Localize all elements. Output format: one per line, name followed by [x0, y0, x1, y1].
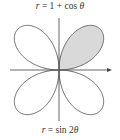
- bottom-equation-label: r = sin 2θ: [0, 125, 120, 135]
- polar-rose-diagram: [0, 0, 120, 140]
- shaded-petal-region: [59, 25, 104, 70]
- x-axis-arrowhead-icon: [107, 68, 112, 72]
- bottom-equation-body: = sin 2: [45, 125, 73, 135]
- theta-symbol: θ: [74, 125, 79, 135]
